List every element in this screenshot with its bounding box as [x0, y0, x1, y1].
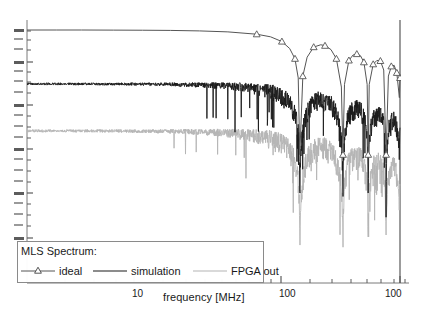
legend-title: MLS Spectrum: — [21, 245, 97, 257]
legend-label-fpga-out: FPGA out — [231, 265, 279, 277]
legend-label-ideal: ideal — [59, 265, 82, 277]
legend-swatch-simulation-line-icon — [93, 266, 127, 276]
spectrum-plot-figure: 10 100 100 frequency [MHz] MLS Spectrum:… — [0, 0, 421, 319]
yaxis-ticks — [27, 31, 33, 238]
legend-swatch-fpga-line-icon — [193, 266, 227, 276]
xaxis-tick-label-100: 100 — [279, 288, 296, 299]
xaxis-tick-label-10: 10 — [132, 288, 143, 299]
xaxis-tick-label-1000: 100 — [385, 288, 402, 299]
legend-swatch-ideal-triangle-icon — [21, 266, 55, 276]
xaxis-title: frequency [MHz] — [163, 291, 245, 303]
legend-entry-ideal[interactable]: ideal — [21, 262, 82, 280]
legend-entry-simulation[interactable]: simulation — [93, 262, 181, 280]
legend-label-simulation: simulation — [131, 265, 181, 277]
legend-entry-fpga-out[interactable]: FPGA out — [193, 262, 279, 280]
